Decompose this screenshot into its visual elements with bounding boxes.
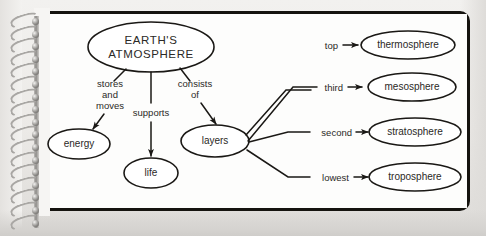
- node-energy-label: energy: [64, 138, 95, 149]
- edge-label-of: of: [191, 89, 199, 100]
- edge-label-second: second: [321, 127, 352, 138]
- notebook-screenshot: EARTH'S ATMOSPHERE stores and moves ener…: [0, 0, 486, 236]
- edge-layers-to-troposphere: [247, 150, 310, 177]
- node-layers-label: layers: [202, 135, 229, 146]
- node-thermosphere-label: thermosphere: [377, 39, 439, 50]
- edge-label-lowest: lowest: [322, 172, 349, 183]
- node-earths-atmosphere-line2: ATMOSPHERE: [108, 48, 194, 60]
- node-earths-atmosphere-line1: EARTH'S: [125, 34, 178, 46]
- edge-label-third: third: [325, 82, 343, 93]
- edge-label-top: top: [325, 40, 338, 51]
- node-life-label: life: [145, 167, 158, 178]
- edge-layers-to-stratosphere: [249, 132, 310, 142]
- node-stratosphere-label: stratosphere: [387, 126, 443, 137]
- edge-label-consists: consists: [178, 78, 213, 89]
- edge-root-to-layers-arrow: [201, 103, 216, 124]
- backdrop-bottom-shading: [0, 210, 486, 236]
- concept-map-diagram: EARTH'S ATMOSPHERE stores and moves ener…: [38, 11, 470, 211]
- binding-coil-hole: [32, 220, 39, 227]
- node-mesosphere-label: mesosphere: [384, 81, 439, 92]
- edge-label-and: and: [102, 89, 118, 100]
- edge-label-supports: supports: [133, 107, 170, 118]
- node-earths-atmosphere[interactable]: [88, 22, 214, 72]
- edge-root-to-energy-arrow: [93, 114, 104, 129]
- edge-label-moves: moves: [96, 100, 124, 111]
- node-troposphere-label: troposphere: [388, 171, 442, 182]
- edge-label-stores: stores: [97, 78, 123, 89]
